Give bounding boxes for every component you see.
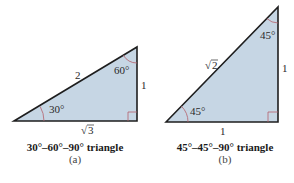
caption-a-title: 30°–60°–90° triangle — [10, 141, 140, 153]
caption-a: 30°–60°–90° triangle (a) — [10, 141, 140, 165]
svg-text:3: 3 — [88, 124, 94, 136]
hypotenuse-label-a: 2 — [75, 69, 81, 81]
vertical-side-label-a: 1 — [141, 79, 147, 91]
caption-a-sub: (a) — [10, 153, 140, 165]
triangle-b-shape — [166, 7, 278, 122]
hypotenuse-label-b: √ 2 — [205, 59, 218, 71]
angle-label-30: 30° — [49, 103, 64, 115]
angle-label-45-bottom: 45° — [190, 105, 205, 117]
angle-label-60: 60° — [114, 64, 129, 76]
triangle-45-45-90: √ 2 1 45° 45° 1 — [166, 7, 288, 137]
caption-b: 45°–45°–90° triangle (b) — [155, 141, 294, 165]
caption-b-sub: (b) — [155, 153, 294, 165]
base-label-b: 1 — [220, 125, 226, 137]
svg-text:2: 2 — [212, 59, 218, 71]
angle-label-45-top: 45° — [260, 29, 275, 41]
svg-text:√: √ — [81, 124, 88, 136]
triangle-a-shape — [14, 47, 137, 121]
triangle-30-60-90: 2 1 30° 60° √ 3 — [14, 47, 147, 136]
base-label-a: √ 3 — [81, 124, 94, 136]
caption-b-title: 45°–45°–90° triangle — [155, 141, 294, 153]
vertical-side-label-b: 1 — [282, 62, 288, 74]
svg-text:√: √ — [205, 59, 212, 71]
